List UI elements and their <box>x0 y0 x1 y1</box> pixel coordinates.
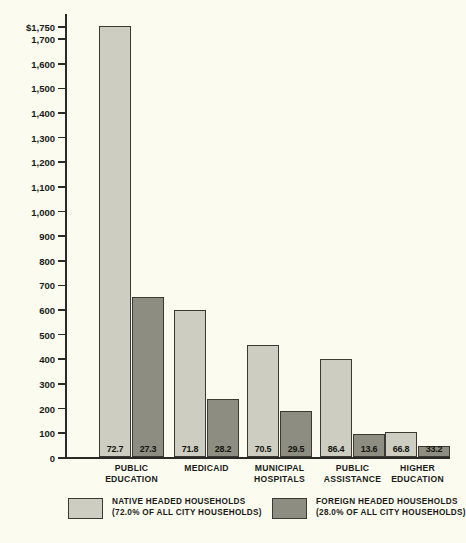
x-axis-category-label: PUBLICEDUCATION <box>90 463 173 484</box>
legend-swatch <box>68 498 103 519</box>
y-tick-label: 0 <box>50 452 55 463</box>
bar: 13.6 <box>353 434 385 457</box>
y-tick-label: 1,700 <box>31 34 55 45</box>
x-axis-category-label: MEDICAID <box>165 463 248 474</box>
y-tick-mark: 1,100 <box>58 186 65 188</box>
bar-value-label: 71.8 <box>175 444 205 454</box>
y-tick-label: 500 <box>39 329 55 340</box>
chart-legend: NATIVE HEADED HOUSEHOLDS(72.0% OF ALL CI… <box>0 497 454 537</box>
bar: 71.8 <box>174 310 206 457</box>
y-tick-label: 1,400 <box>31 107 55 118</box>
y-tick-label: 1,200 <box>31 157 55 168</box>
bar: 70.5 <box>247 345 279 457</box>
y-axis-line <box>65 14 67 459</box>
bar-value-label: 13.6 <box>354 444 384 454</box>
y-tick-mark: $1,750 <box>58 26 65 28</box>
y-tick-label: 1,500 <box>31 83 55 94</box>
bar-value-label: 27.3 <box>133 444 163 454</box>
x-axis-category-label: HIGHEREDUCATION <box>376 463 459 484</box>
y-tick-label: 700 <box>39 280 55 291</box>
y-tick-mark: 1,300 <box>58 137 65 139</box>
y-tick-mark: 1,500 <box>58 88 65 90</box>
bar-value-label: 70.5 <box>248 444 278 454</box>
y-tick-mark: 1,600 <box>58 63 65 65</box>
y-tick-label: 900 <box>39 231 55 242</box>
y-tick-mark: 1,700 <box>58 38 65 40</box>
x-axis-category-label: MUNICIPALHOSPITALS <box>238 463 321 484</box>
y-tick-mark: 500 <box>58 334 65 336</box>
y-tick-label: 800 <box>39 255 55 266</box>
bar: 28.2 <box>207 399 239 457</box>
y-tick-label: 1,000 <box>31 206 55 217</box>
y-tick-mark: 800 <box>58 260 65 262</box>
y-tick-mark: 1,200 <box>58 161 65 163</box>
plot-area: $1,7501,7001,6001,5001,4001,3001,2001,10… <box>65 14 450 459</box>
bar: 29.5 <box>280 411 312 457</box>
y-tick-label: 100 <box>39 428 55 439</box>
y-tick-mark: 1,000 <box>58 211 65 213</box>
legend-entry: FOREIGN HEADED HOUSEHOLDS(28.0% OF ALL C… <box>272 497 466 519</box>
y-tick-label: 300 <box>39 378 55 389</box>
y-tick-mark: 600 <box>58 309 65 311</box>
bar: 66.8 <box>385 432 417 457</box>
y-tick-mark: 700 <box>58 285 65 287</box>
bar-value-label: 28.2 <box>208 444 238 454</box>
legend-swatch <box>272 498 307 519</box>
legend-entry: NATIVE HEADED HOUSEHOLDS(72.0% OF ALL CI… <box>68 497 262 519</box>
y-tick-mark: 1,400 <box>58 112 65 114</box>
y-tick-label: 400 <box>39 354 55 365</box>
bar: 27.3 <box>132 297 164 457</box>
x-axis-line <box>65 457 450 459</box>
y-tick-mark: 0 <box>58 457 65 459</box>
y-tick-mark: 300 <box>58 383 65 385</box>
bar: 72.7 <box>99 26 131 457</box>
bar-value-label: 86.4 <box>321 444 351 454</box>
bar-value-label: 66.8 <box>386 444 416 454</box>
bar: 33.2 <box>418 446 450 457</box>
y-tick-label: 1,100 <box>31 181 55 192</box>
y-tick-label: 200 <box>39 403 55 414</box>
y-tick-mark: 400 <box>58 358 65 360</box>
y-tick-label: 1,300 <box>31 132 55 143</box>
y-tick-label: 600 <box>39 305 55 316</box>
y-tick-label: $1,750 <box>26 21 55 32</box>
legend-label: FOREIGN HEADED HOUSEHOLDS(28.0% OF ALL C… <box>316 497 466 518</box>
bar-value-label: 72.7 <box>100 444 130 454</box>
y-tick-mark: 900 <box>58 235 65 237</box>
y-tick-mark: 200 <box>58 408 65 410</box>
legend-label: NATIVE HEADED HOUSEHOLDS(72.0% OF ALL CI… <box>112 497 262 518</box>
y-tick-label: 1,600 <box>31 58 55 69</box>
bar: 86.4 <box>320 359 352 458</box>
y-tick-mark: 100 <box>58 432 65 434</box>
bar-value-label: 33.2 <box>419 444 449 454</box>
bar-value-label: 29.5 <box>281 444 311 454</box>
